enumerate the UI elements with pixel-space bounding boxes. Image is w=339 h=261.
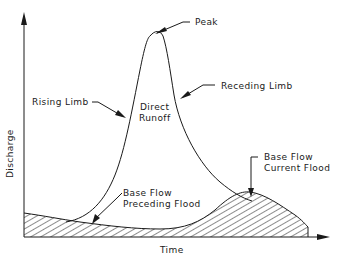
rising-limb-annotation: Rising Limb <box>32 97 126 118</box>
y-axis-label: Discharge <box>5 129 15 178</box>
receding-limb-arrow-icon <box>180 91 191 99</box>
y-axis <box>21 12 27 237</box>
base-flow-preceding-label-line2: Preceding Flood <box>123 199 201 209</box>
receding-limb-annotation: Receding Limb <box>180 81 293 99</box>
direct-runoff-label-line1: Direct <box>140 102 169 112</box>
hydrograph-diagram: Peak Rising Limb Direct Runoff Receding … <box>0 0 339 261</box>
base-flow-current-label-line1: Base Flow <box>264 152 313 162</box>
x-axis-label: Time <box>159 245 184 255</box>
receding-limb-label: Receding Limb <box>221 81 293 91</box>
base-flow-current-label-line2: Current Flood <box>264 163 330 173</box>
base-flow-preceding-annotation: Base Flow Preceding Flood <box>92 188 201 224</box>
rising-limb-arrow-icon <box>115 110 126 118</box>
x-axis-arrow-icon <box>317 234 330 240</box>
y-axis-arrow-icon <box>21 12 27 25</box>
rising-limb-label: Rising Limb <box>32 97 89 107</box>
peak-label: Peak <box>195 17 218 27</box>
peak-annotation: Peak <box>155 17 218 34</box>
base-flow-preceding-label-line1: Base Flow <box>123 188 172 198</box>
direct-runoff-label-line2: Runoff <box>139 113 171 123</box>
base-flow-current-annotation: Base Flow Current Flood <box>248 152 330 197</box>
